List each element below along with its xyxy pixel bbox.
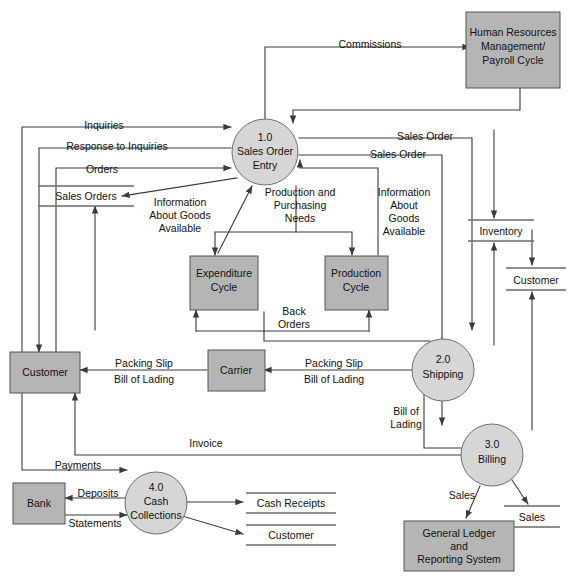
process-cash-collections-number: 4.0 [149, 481, 164, 493]
flow-inquiries-line [22, 127, 231, 352]
svg-text:Bill of: Bill of [393, 405, 419, 417]
svg-text:Bill of Lading: Bill of Lading [304, 373, 364, 385]
data-store-customer-bottom: Customer [246, 525, 336, 545]
entity-customer-left-label: Customer [22, 366, 68, 378]
svg-text:Packing Slip: Packing Slip [115, 357, 173, 369]
entity-production-cycle: Production Cycle [325, 256, 388, 310]
flow-label-production-purchasing-needs: Production and Purchasing Needs [265, 186, 336, 224]
data-store-sales-orders-label: Sales Orders [55, 190, 116, 202]
svg-text:Information: Information [154, 196, 207, 208]
flow-commissions-line [265, 47, 470, 120]
flow-label-payments: Payments [55, 459, 102, 471]
flow-needs-to-production [296, 232, 352, 255]
flow-label-back-orders: Back Orders [278, 305, 310, 330]
entity-general-ledger-line3: Reporting System [417, 553, 501, 565]
svg-text:Packing Slip: Packing Slip [305, 357, 363, 369]
flow-label-sales-to-gl: Sales [449, 489, 475, 501]
data-store-customer-right: Customer [506, 268, 566, 290]
svg-text:Lading: Lading [390, 418, 422, 430]
entity-human-resources-line1: Human Resources [470, 26, 557, 38]
flow-response-inquiries-line [39, 148, 231, 352]
data-store-cash-receipts-label: Cash Receipts [257, 497, 325, 509]
svg-text:Back: Back [282, 305, 306, 317]
entity-human-resources-line2: Management/ [481, 40, 545, 52]
svg-text:About: About [390, 199, 418, 211]
svg-text:Orders: Orders [278, 318, 310, 330]
process-billing-line1: Billing [478, 453, 506, 465]
svg-text:About Goods: About Goods [149, 209, 210, 221]
flow-label-packing-slip-right: Packing Slip Bill of Lading [304, 357, 364, 385]
flow-label-deposits: Deposits [78, 487, 119, 499]
entity-expenditure-cycle-line1: Expenditure [196, 267, 252, 279]
data-flow-diagram: Sales Orders Inventory Customer Sales Ca… [0, 0, 568, 577]
entity-general-ledger-line1: General Ledger [423, 527, 496, 539]
entity-bank-label: Bank [27, 497, 52, 509]
flow-back-orders-source [264, 331, 430, 341]
flow-label-packing-slip-left: Packing Slip Bill of Lading [114, 357, 174, 385]
entity-customer-left: Customer [10, 352, 80, 393]
flow-info-goods-left-line [218, 186, 252, 253]
process-shipping-number: 2.0 [436, 353, 451, 365]
flow-sales-order-second-line [299, 155, 442, 338]
data-store-cash-receipts: Cash Receipts [246, 493, 336, 513]
flow-to-sales-store [512, 480, 528, 504]
process-shipping-line1: Shipping [423, 368, 464, 380]
svg-text:Needs: Needs [285, 212, 315, 224]
flow-hr-return-line [293, 88, 520, 123]
process-cash-collections-line1: Cash [144, 495, 169, 507]
process-shipping: 2.0 Shipping [412, 339, 474, 401]
flow-label-inquiries: Inquiries [84, 119, 124, 131]
entity-general-ledger: General Ledger and Reporting System [404, 521, 514, 571]
svg-text:Production and: Production and [265, 186, 336, 198]
process-billing-number: 3.0 [485, 438, 500, 450]
process-cash-collections: 4.0 Cash Collections [125, 472, 187, 534]
process-sales-order-entry-line1: Sales Order [237, 145, 294, 157]
flow-label-orders: Orders [86, 163, 118, 175]
flow-label-bill-of-lading: Bill of Lading [390, 405, 422, 430]
flow-label-response-to-inquiries: Response to Inquiries [66, 140, 168, 152]
data-store-inventory: Inventory [468, 220, 534, 241]
flow-label-sales-order-top: Sales Order [397, 130, 454, 142]
data-store-customer-bottom-label: Customer [268, 529, 314, 541]
entity-general-ledger-line2: and [450, 540, 468, 552]
data-store-customer-right-label: Customer [513, 274, 559, 286]
data-store-sales-label: Sales [519, 511, 545, 523]
svg-text:Available: Available [159, 222, 202, 234]
dfd-canvas: Sales Orders Inventory Customer Sales Ca… [0, 0, 568, 577]
svg-text:Goods: Goods [389, 212, 420, 224]
flow-label-statements: Statements [68, 517, 121, 529]
process-sales-order-entry-line2: Entry [253, 159, 278, 171]
entity-human-resources: Human Resources Management/ Payroll Cycl… [466, 12, 560, 88]
entity-bank: Bank [13, 483, 65, 524]
svg-text:Bill of Lading: Bill of Lading [114, 373, 174, 385]
entity-production-cycle-line2: Cycle [343, 281, 369, 293]
flow-label-info-goods-left: Information About Goods Available [149, 196, 210, 234]
data-store-inventory-label: Inventory [479, 225, 523, 237]
entity-production-cycle-line1: Production [331, 267, 381, 279]
process-sales-order-entry-number: 1.0 [258, 131, 273, 143]
entity-human-resources-line3: Payroll Cycle [482, 54, 543, 66]
data-store-sales-orders: Sales Orders [38, 186, 134, 206]
flow-label-sales-order-second: Sales Order [370, 148, 427, 160]
flow-label-invoice: Invoice [189, 437, 222, 449]
svg-text:Information: Information [378, 186, 431, 198]
process-billing: 3.0 Billing [461, 424, 523, 486]
svg-text:Purchasing: Purchasing [274, 199, 327, 211]
flow-to-customer-store-bottom [182, 516, 243, 534]
flow-label-commissions: Commissions [338, 38, 401, 50]
flow-label-info-goods-right: Information About Goods Available [378, 186, 431, 237]
flow-to-sales-orders-store [122, 178, 237, 196]
svg-text:Available: Available [383, 225, 426, 237]
entity-expenditure-cycle-line2: Cycle [211, 281, 237, 293]
process-cash-collections-line2: Collections [130, 509, 181, 521]
process-sales-order-entry: 1.0 Sales Order Entry [232, 119, 298, 185]
entity-carrier-label: Carrier [220, 364, 253, 376]
entity-expenditure-cycle: Expenditure Cycle [190, 256, 258, 310]
entity-carrier: Carrier [208, 350, 265, 391]
